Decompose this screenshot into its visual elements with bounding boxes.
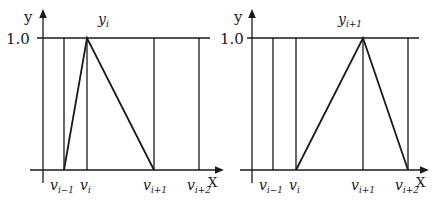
node-label-v-i-minus-1: vi−1 xyxy=(50,177,74,195)
node-label-v-i: vi xyxy=(289,177,300,195)
x-axis-label: X xyxy=(416,175,426,190)
y-tick-1.0: 1.0 xyxy=(220,30,244,48)
function-title: yi xyxy=(97,11,109,29)
node-label-v-i-plus-1: vi+1 xyxy=(351,177,375,195)
hat-function-y-i-plus-1 xyxy=(296,38,408,170)
node-label-v-i-minus-1: vi−1 xyxy=(259,177,283,195)
node-label-v-i: vi xyxy=(80,177,91,195)
y-axis-label: y xyxy=(23,8,33,26)
y-axis-label: y xyxy=(233,8,243,26)
left-diagram: y 1.0 yi vi−1 vi vi+1 vi+2 X xyxy=(6,8,220,195)
x-axis-label: X xyxy=(208,175,218,190)
hat-function-y-i xyxy=(64,38,154,170)
node-label-v-i-plus-1: vi+1 xyxy=(143,177,167,195)
hat-functions-figure: y 1.0 yi vi−1 vi vi+1 vi+2 X y 1.0 yi+1 … xyxy=(0,0,441,203)
y-tick-1.0: 1.0 xyxy=(6,30,30,48)
function-title: yi+1 xyxy=(337,11,362,29)
right-diagram: y 1.0 yi+1 vi−1 vi vi+1 vi+2 X xyxy=(220,8,426,195)
